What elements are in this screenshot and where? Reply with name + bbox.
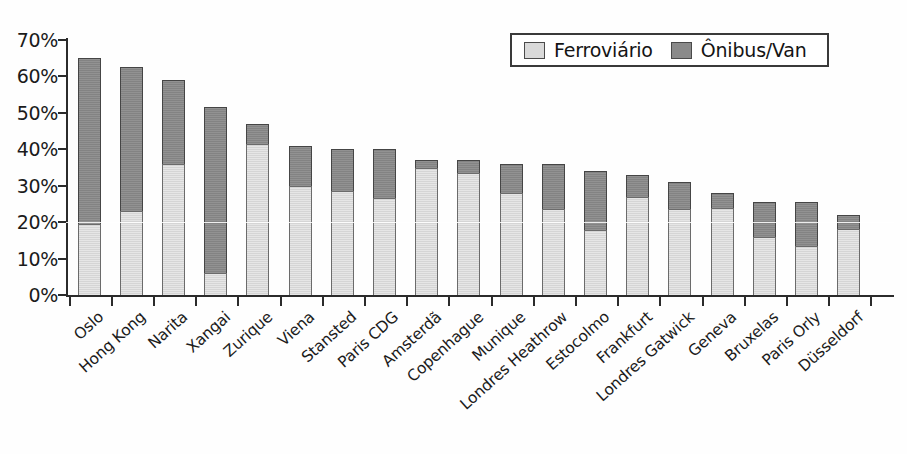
- x-axis-tick-mark: [364, 297, 366, 306]
- x-axis: OsloHong KongNaritaXangaiZuriqueVienaSta…: [0, 0, 907, 454]
- x-axis-tick-mark: [322, 297, 324, 306]
- x-axis-tick-mark: [744, 297, 746, 306]
- dark-gray-swatch-icon: [671, 42, 692, 59]
- plot-area: 0%10%20%30%40%50%60%70% OsloHong KongNar…: [0, 0, 907, 454]
- x-axis-tick-mark: [237, 297, 239, 306]
- x-axis-tick-mark: [659, 297, 661, 306]
- x-axis-tick-mark: [828, 297, 830, 306]
- x-axis-tick-mark: [111, 297, 113, 306]
- light-gray-swatch-icon: [524, 42, 545, 59]
- legend-item-ferroviario[interactable]: Ferroviário: [524, 39, 661, 61]
- x-axis-tick-mark: [786, 297, 788, 306]
- legend-item-onibus-van[interactable]: Ônibus/Van: [671, 39, 815, 61]
- chart-legend: Ferroviário Ônibus/Van: [510, 33, 829, 67]
- x-axis-tick-mark: [448, 297, 450, 306]
- x-axis-tick-mark: [702, 297, 704, 306]
- x-axis-tick-mark: [69, 297, 71, 306]
- legend-label-ferroviario: Ferroviário: [554, 39, 653, 61]
- x-axis-tick-mark: [870, 297, 872, 306]
- legend-label-onibus-van: Ônibus/Van: [701, 39, 807, 61]
- x-axis-tick-mark: [491, 297, 493, 306]
- chart-figure: 0%10%20%30%40%50%60%70% OsloHong KongNar…: [0, 0, 907, 454]
- x-axis-tick-mark: [533, 297, 535, 306]
- x-axis-tick-mark: [575, 297, 577, 306]
- x-axis-tick-mark: [617, 297, 619, 306]
- x-axis-tick-mark: [195, 297, 197, 306]
- x-axis-tick-mark: [406, 297, 408, 306]
- x-axis-tick-mark: [153, 297, 155, 306]
- x-axis-tick-mark: [280, 297, 282, 306]
